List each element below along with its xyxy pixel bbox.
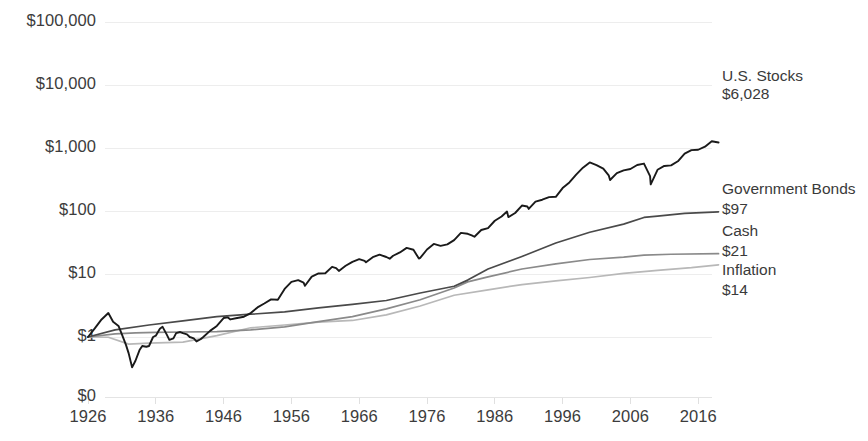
x-axis-tick-label: 1936 [137, 407, 174, 425]
series-label-value: $97 [722, 200, 748, 217]
y-axis-tick-label: $1,000 [45, 137, 96, 155]
y-axis-tick-label: $0 [77, 386, 96, 404]
x-axis-tick-label: 1956 [273, 407, 310, 425]
series-label-value: $6,028 [722, 85, 769, 102]
y-axis-tick-label: $100,000 [26, 11, 96, 29]
x-axis-tick-label: 1986 [476, 407, 513, 425]
series-line-u-s-stocks [88, 141, 719, 367]
x-axis-tick-label: 1996 [544, 407, 581, 425]
x-axis-tick-label: 1926 [69, 407, 106, 425]
y-axis-tick-label: $100 [59, 200, 96, 218]
series-label-value: $14 [722, 281, 748, 298]
x-axis-tick-label: 1976 [408, 407, 445, 425]
x-tick-marks [88, 398, 698, 404]
x-axis-tick-label: 1966 [341, 407, 378, 425]
x-axis-tick-label: 2006 [612, 407, 649, 425]
series-label-name: U.S. Stocks [722, 67, 803, 84]
series-end-labels: U.S. Stocks$6,028Government Bonds$97Cash… [722, 67, 856, 298]
y-axis-tick-label: $10,000 [36, 74, 96, 92]
series-label-name: Cash [722, 222, 758, 239]
x-axis-tick-label: 1946 [205, 407, 242, 425]
series-label-name: Government Bonds [722, 180, 856, 197]
series-label-name: Inflation [722, 261, 776, 278]
chart-canvas: $0$1$10$100$1,000$10,000$100,000 1926193… [0, 0, 868, 441]
series-line-cash [88, 254, 719, 337]
y-axis-tick-label: $10 [68, 263, 96, 281]
data-series-lines [88, 141, 719, 367]
x-axis-tick-label: 2016 [680, 407, 717, 425]
series-label-value: $21 [722, 242, 748, 259]
y-axis-labels: $0$1$10$100$1,000$10,000$100,000 [26, 11, 96, 404]
x-axis-labels: 1926193619461956196619761986199620062016 [69, 407, 716, 425]
growth-of-dollar-chart: $0$1$10$100$1,000$10,000$100,000 1926193… [0, 0, 868, 441]
